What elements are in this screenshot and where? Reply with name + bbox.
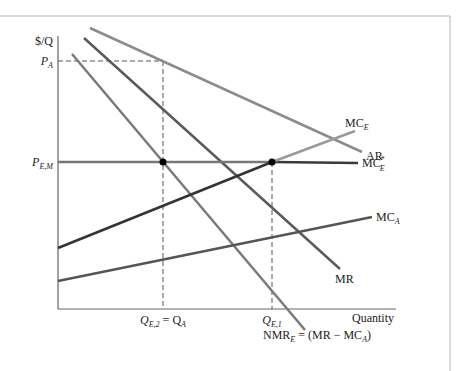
- mc-e-star-label: MC*E: [362, 155, 385, 173]
- equilibrium-dot-qe1: [269, 159, 276, 166]
- x-axis-label: Quantity: [352, 311, 394, 325]
- qe2-qa-label: QE,2 = QA: [140, 313, 186, 329]
- mc-e-curve-lower: [58, 162, 272, 248]
- mc-a-label: MCA: [376, 210, 400, 226]
- mc-e-curve-upper: [272, 131, 355, 162]
- y-axis-label: $/Q: [35, 34, 53, 48]
- qe1-label: QE,1: [262, 313, 282, 329]
- diagram-canvas: $/Q Quantity PA PE,M QE,2 = QA QE,1 AR M…: [0, 0, 473, 371]
- nmr-curve: [72, 54, 305, 330]
- nmr-label: NMRE = (MR − MCA): [263, 328, 371, 344]
- mc-e-star-curve: [272, 162, 358, 163]
- mc-e-label: MCE: [345, 116, 369, 132]
- mr-label: MR: [335, 272, 354, 286]
- mc-a-curve: [58, 217, 372, 281]
- equilibrium-dot-qe2: [160, 159, 167, 166]
- pa-label: PA: [40, 54, 53, 70]
- mr-curve: [84, 38, 340, 269]
- pem-label: PE,M: [31, 155, 54, 171]
- ar-curve: [90, 28, 362, 152]
